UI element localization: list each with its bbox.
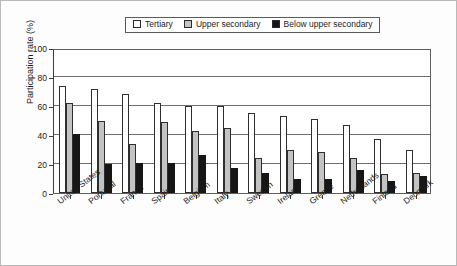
y-axis-tick-label: 40 <box>1 132 47 141</box>
y-axis-tick-mark <box>49 194 53 195</box>
bar-group <box>180 50 212 193</box>
bar-group <box>275 50 307 193</box>
bar <box>231 168 238 193</box>
y-axis-tick-label: 60 <box>1 103 47 112</box>
legend-swatch-icon <box>184 20 192 28</box>
bar <box>224 128 231 193</box>
bar <box>406 150 413 194</box>
bar <box>248 113 255 193</box>
bar-group <box>54 50 86 193</box>
y-axis-tick-label: 80 <box>1 74 47 83</box>
bar-group <box>401 50 433 193</box>
legend-item: Upper secondary <box>184 20 261 29</box>
y-axis-tick-label: 20 <box>1 161 47 170</box>
bar-group <box>149 50 181 193</box>
bar-group <box>243 50 275 193</box>
legend-item-label: Tertiary <box>145 20 173 29</box>
legend-swatch-icon <box>272 20 280 28</box>
y-axis-tick-label: 100 <box>1 45 47 54</box>
bar <box>374 139 381 193</box>
legend-item: Tertiary <box>133 20 173 29</box>
legend-swatch-icon <box>133 20 141 28</box>
legend-item-label: Below upper secondary <box>284 20 373 29</box>
bar <box>161 122 168 193</box>
bar <box>280 116 287 193</box>
bar <box>122 94 129 193</box>
bar <box>59 86 66 193</box>
bar <box>66 103 73 193</box>
bar <box>154 103 161 193</box>
bar <box>217 106 224 193</box>
y-axis-title: Participation rate (%) <box>25 0 35 142</box>
legend-item-label: Upper secondary <box>196 20 261 29</box>
bar <box>311 119 318 193</box>
bar <box>343 125 350 193</box>
chart-legend: TertiaryUpper secondaryBelow upper secon… <box>125 17 380 33</box>
bar <box>185 106 192 193</box>
y-axis-tick-label: 0 <box>1 190 47 199</box>
bar-group <box>338 50 370 193</box>
chart-figure: TertiaryUpper secondaryBelow upper secon… <box>0 0 457 266</box>
bar <box>98 121 105 194</box>
bar-group <box>117 50 149 193</box>
bar-group <box>306 50 338 193</box>
legend-item: Below upper secondary <box>272 20 373 29</box>
bar-group <box>212 50 244 193</box>
